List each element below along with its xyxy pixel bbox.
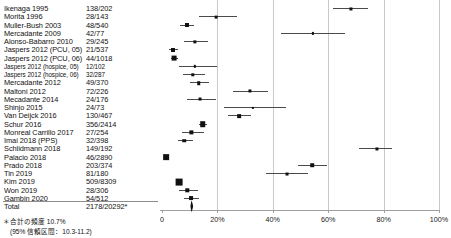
plot-area: 020%40%60%80%100% — [160, 0, 451, 238]
point-estimate-marker — [200, 121, 206, 127]
point-estimate-marker — [172, 56, 177, 61]
point-estimate-marker — [190, 131, 193, 134]
tick-mark-0 — [162, 210, 163, 213]
tick-mark-80 — [384, 210, 385, 213]
point-estimate-marker — [164, 154, 170, 160]
study-table: Ikenaga 1995138/202Morita 199628/143Mull… — [0, 0, 160, 238]
total-count: 2178/20292* — [86, 202, 158, 211]
confidence-interval-line — [224, 107, 287, 108]
point-estimate-marker — [249, 90, 252, 93]
point-estimate-marker — [191, 73, 194, 76]
confidence-interval-line — [199, 16, 236, 17]
x-tick-label: 20% — [210, 215, 224, 224]
forest-plot: Ikenaga 1995138/202Morita 199628/143Mull… — [0, 0, 451, 238]
gridline-20 — [217, 0, 218, 211]
x-tick-label: 40% — [266, 215, 280, 224]
point-estimate-marker — [175, 179, 182, 186]
point-estimate-marker — [189, 197, 193, 201]
point-estimate-marker — [350, 7, 353, 10]
point-estimate-marker — [312, 32, 314, 34]
point-estimate-marker — [193, 40, 196, 43]
tick-mark-20 — [217, 210, 218, 213]
gridline-100 — [439, 0, 440, 211]
point-estimate-marker — [182, 139, 186, 143]
x-axis-line — [160, 210, 439, 211]
x-tick-label: 100% — [430, 215, 448, 224]
x-tick-label: 0 — [160, 215, 164, 224]
point-estimate-marker — [197, 81, 201, 85]
point-estimate-marker — [186, 188, 189, 191]
confidence-interval-line — [187, 99, 217, 100]
point-estimate-marker — [285, 172, 288, 175]
point-estimate-marker — [198, 98, 201, 101]
tick-mark-40 — [273, 210, 274, 213]
gridline-40 — [273, 0, 274, 211]
footnote-line-1: ＊合計の頻度 10.7% — [3, 217, 66, 226]
tick-mark-60 — [328, 210, 329, 213]
point-estimate-marker — [185, 23, 189, 27]
x-tick-label: 60% — [321, 215, 335, 224]
point-estimate-marker — [237, 114, 241, 118]
tick-mark-100 — [439, 210, 440, 213]
point-estimate-marker — [311, 164, 315, 168]
gridline-80 — [384, 0, 385, 211]
point-estimate-marker — [252, 107, 254, 109]
point-estimate-marker — [375, 147, 378, 150]
point-estimate-marker — [194, 65, 196, 67]
confidence-interval-line — [179, 66, 216, 67]
x-tick-label: 80% — [376, 215, 390, 224]
gridline-60 — [328, 0, 329, 211]
point-estimate-marker — [215, 16, 218, 19]
footnote-line-2: (95% 信頼区間：10.3-11.2) — [10, 227, 92, 236]
point-estimate-marker — [171, 48, 175, 52]
